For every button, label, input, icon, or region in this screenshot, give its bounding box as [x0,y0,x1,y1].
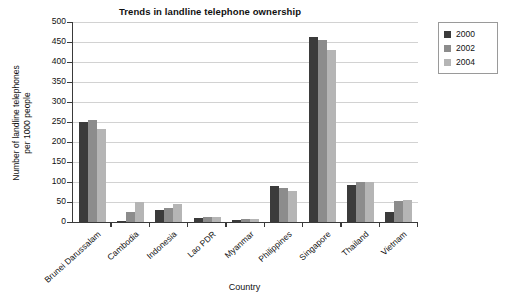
bar [135,202,144,222]
legend-label: 2004 [456,58,475,67]
x-axis-tick-mark [302,222,303,227]
y-axis-title: Number of landline telephones per 1000 p… [11,35,33,211]
bar [203,217,212,222]
bar [126,212,135,222]
y-axis-tick-label: 200 [36,136,66,146]
bar [327,50,336,222]
chart-container: Trends in landline telephone ownership N… [0,0,509,305]
y-axis-tick-label: 500 [36,16,66,26]
legend-label: 2002 [456,44,475,53]
y-axis-tick-label: 50 [36,196,66,206]
x-axis-tick-mark [149,222,150,227]
x-axis-category-label: Brunei Darussalam [0,229,102,305]
y-axis-tick-label: 150 [36,156,66,166]
x-axis-title: Country [72,282,417,292]
x-axis-tick-mark [379,222,380,227]
bar [318,40,327,222]
bar [173,204,182,222]
chart-legend: 200020022004 [438,22,498,74]
bar [279,188,288,222]
y-axis-tick-label: 250 [36,116,66,126]
bar [347,185,356,222]
bar [164,208,173,222]
y-axis-title-line1: Number of landline telephones [11,65,21,180]
y-axis-tick-label: 450 [36,36,66,46]
bar [194,218,203,222]
y-axis-tick-label: 300 [36,96,66,106]
bar-group [232,22,259,222]
bar [88,120,97,222]
bar-group [117,22,144,222]
y-axis-tick-label: 400 [36,56,66,66]
bar [288,191,297,222]
bar [79,122,88,222]
bar [365,182,374,222]
legend-label: 2000 [456,30,475,39]
bar [232,220,241,222]
bar [155,210,164,222]
x-axis-tick-mark [110,222,111,227]
bar [270,186,279,222]
legend-item[interactable]: 2002 [444,41,493,55]
bar [241,219,250,222]
legend-item[interactable]: 2004 [444,55,493,69]
x-axis-tick-mark [340,222,341,227]
y-axis-tick-label: 350 [36,76,66,86]
bar [97,129,106,222]
x-axis-tick-mark [187,222,188,227]
bar [356,182,365,222]
bar [212,217,221,222]
y-axis-tick-label: 0 [36,216,66,226]
bar [394,201,403,222]
bar [403,200,412,222]
plot-area [72,22,418,223]
bar [309,37,318,222]
bar [117,221,126,222]
legend-swatch-icon [444,45,451,52]
bar-group [309,22,336,222]
x-axis-tick-mark [264,222,265,227]
legend-swatch-icon [444,59,451,66]
x-axis-tick-mark [225,222,226,227]
bar [250,219,259,222]
bar-group [385,22,412,222]
y-axis-tick-label: 100 [36,176,66,186]
bar-group [270,22,297,222]
bar [385,212,394,222]
legend-swatch-icon [444,31,451,38]
x-axis-tick-mark [417,222,418,227]
bar-group [79,22,106,222]
bar-group [347,22,374,222]
bar-group [155,22,182,222]
bar-group [194,22,221,222]
y-axis-title-line2: per 1000 people [22,35,33,211]
legend-item[interactable]: 2000 [444,27,493,41]
